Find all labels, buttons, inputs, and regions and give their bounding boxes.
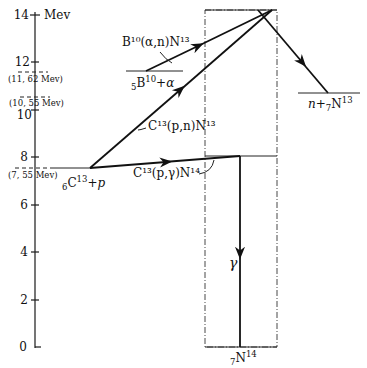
c13-p-n-line	[178, 10, 272, 92]
level-10-55-label: (10, 55 Mev)	[9, 98, 64, 108]
compound-nucleus-box	[205, 10, 277, 347]
tick-6: 6	[20, 198, 28, 212]
n14-label: 7N14	[230, 349, 257, 367]
c13-p-gamma-line	[164, 156, 240, 162]
c13-p-gamma-reaction-label: C¹³(p,γ)N¹⁴	[133, 166, 200, 180]
level-7-55-label: (7, 55 Mev)	[8, 170, 58, 180]
n-n13-label: n+7N13	[308, 95, 353, 113]
energy-level-diagram: 0 2 4 6 8 10 12 14 Mev (11, 62 Mev) (10,…	[0, 0, 367, 368]
c13-p-label: 6C13+p	[62, 174, 105, 192]
tick-0: 0	[19, 340, 27, 354]
n-emission-arrow	[258, 10, 302, 62]
tick-14: 14	[14, 8, 30, 22]
tick-8: 8	[20, 150, 28, 164]
tick-12: 12	[15, 55, 30, 69]
axis-unit-label: Mev	[44, 8, 70, 22]
b10-alpha-label: 5B10+α	[131, 74, 174, 92]
gamma-label: γ	[229, 255, 238, 271]
n-emission-line	[300, 60, 328, 93]
b10-alpha-n-reaction-label: B¹⁰(α,n)N¹³	[122, 35, 190, 49]
tick-4: 4	[20, 245, 28, 259]
c13-pn-label-pointer	[138, 128, 146, 130]
tick-10: 10	[17, 108, 32, 122]
energy-axis	[30, 12, 41, 348]
b10-alpha-n-arrow	[146, 46, 198, 71]
b10-alpha-n-line	[196, 10, 272, 47]
level-11-62-label: (11, 62 Mev)	[8, 74, 63, 84]
tick-2: 2	[20, 293, 28, 307]
c13-p-n-reaction-label: C¹³(p,n)N¹³	[148, 119, 216, 133]
c13-pg-label-pointer	[199, 160, 214, 174]
